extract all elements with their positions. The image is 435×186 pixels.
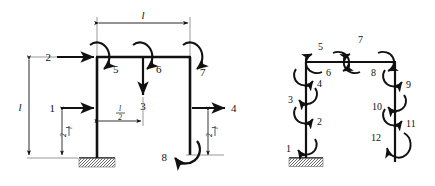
dof-12-moment: 12	[371, 132, 411, 158]
load-4-force: 4	[192, 102, 237, 114]
dof-11-moment: 11	[383, 109, 416, 129]
load-6-label: 6	[156, 63, 162, 75]
dof-9-moment: 9	[383, 70, 411, 90]
left-panel: l l 2 1 l	[18, 9, 237, 167]
dimension-top-span: l	[97, 9, 190, 56]
dimension-lower-right-fraction: l 2	[205, 126, 220, 137]
dimension-lower-left-height: l 2	[59, 111, 74, 155]
dof-4-moment: 4	[294, 69, 322, 89]
dof-7-label: 7	[358, 34, 363, 45]
dimension-mid-offset: l 2	[99, 97, 143, 126]
svg-text:2: 2	[59, 133, 68, 137]
dof-9-label: 9	[406, 79, 411, 90]
dimension-left-height-label: l	[18, 101, 21, 113]
dof-8-label: 8	[371, 67, 376, 78]
dof-3-moment: 3	[288, 88, 317, 105]
load-7-label: 7	[200, 66, 206, 78]
fixed-support-left	[79, 158, 115, 167]
dimension-top-span-label: l	[141, 9, 144, 21]
dof-1-moment: 1	[286, 139, 317, 155]
dof-12-label: 12	[371, 132, 381, 143]
dof-6-label: 6	[326, 67, 331, 78]
dof-2-label: 2	[317, 116, 322, 127]
svg-text:2: 2	[118, 113, 122, 122]
load-6-moment: 6	[133, 42, 162, 75]
svg-text:l: l	[211, 127, 220, 129]
dimension-lower-right-height: l 2	[186, 111, 224, 155]
dof-3-label: 3	[288, 94, 293, 105]
load-4-label: 4	[231, 102, 237, 114]
dof-5-label: 5	[318, 41, 323, 52]
dof-6-moment: 6	[326, 52, 349, 78]
dimension-lower-left-fraction: l 2	[59, 126, 74, 137]
svg-text:2: 2	[205, 133, 214, 137]
dof-10-moment: 10	[372, 95, 406, 112]
load-1-force: 1	[50, 102, 95, 114]
right-panel: 1 2 3 4 5	[286, 34, 416, 167]
load-5-moment: 5	[90, 42, 119, 75]
structural-frame-figure: l l 2 1 l	[0, 0, 435, 186]
dof-11-label: 11	[406, 118, 416, 129]
load-1-label: 1	[50, 102, 56, 114]
dof-2-moment: 2	[294, 107, 322, 127]
load-8-moment: 8	[162, 141, 200, 163]
fixed-support-right	[289, 158, 323, 167]
dof-4-label: 4	[317, 78, 322, 89]
dof-1-label: 1	[286, 143, 291, 154]
svg-text:l: l	[119, 104, 121, 113]
load-5-label: 5	[113, 63, 119, 75]
load-2-label: 2	[46, 51, 52, 63]
figure-canvas: l l 2 1 l	[0, 0, 435, 186]
dof-10-label: 10	[372, 101, 382, 112]
dimension-mid-offset-fraction: l 2	[116, 104, 125, 122]
dof-5-moment: 5	[306, 41, 323, 73]
load-7-moment: 7	[183, 42, 206, 78]
svg-text:l: l	[65, 127, 74, 129]
load-8-label: 8	[162, 151, 168, 163]
